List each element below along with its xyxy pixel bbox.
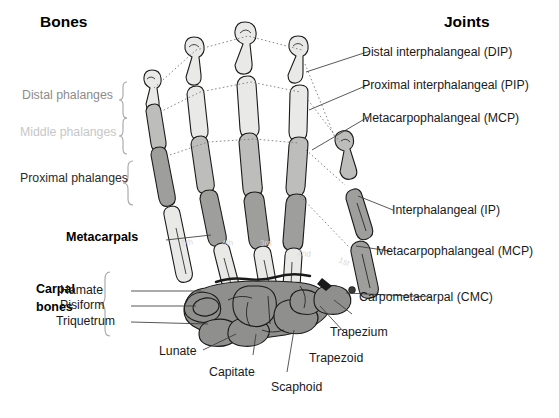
joints-column-heading: Joints — [444, 14, 490, 30]
metacarpal-5-number: 5th — [181, 237, 194, 248]
digit-1-thumb — [335, 131, 378, 299]
metacarpal-3-number: 3rd — [260, 239, 273, 248]
label-joint-ip: Interphalangeal (IP) — [392, 204, 500, 216]
bones-column-heading: Bones — [40, 14, 87, 30]
label-joint-mcp-fingers: Metacarpophalangeal (MCP) — [362, 112, 519, 124]
phalanges-brackets — [99, 82, 133, 336]
label-capitate: Capitate — [209, 366, 255, 378]
label-triquetrum: Triquetrum — [56, 315, 115, 327]
label-joint-mcp-thumb: Metacarpophalangeal (MCP) — [376, 245, 533, 257]
metacarpal-4-number: 4th — [221, 238, 234, 248]
label-joint-cmc: Carpometacarpal (CMC) — [359, 291, 493, 303]
label-metacarpals: Metacarpals — [66, 231, 138, 244]
label-hamate: Hamate — [60, 284, 103, 296]
label-lunate: Lunate — [159, 345, 197, 357]
digit-5-little-finger — [144, 70, 193, 282]
label-pisiform: Pisiform — [60, 299, 104, 311]
digit-4-ring-finger — [185, 37, 239, 291]
label-joint-dip: Distal interphalangeal (DIP) — [362, 46, 512, 58]
label-scaphoid: Scaphoid — [271, 381, 322, 393]
label-proximal-phalanges: Proximal phalanges — [20, 172, 128, 184]
label-joint-pip: Proximal interphalangeal (PIP) — [362, 79, 529, 91]
label-trapezium: Trapezium — [330, 326, 388, 338]
metacarpal-1-number: 1st — [337, 256, 351, 269]
label-middle-phalanges: Middle phalanges — [20, 126, 116, 138]
digit-3-middle-finger — [235, 22, 276, 292]
figure-canvas: .bl{fill:#e9e9e7;stroke:#1a1a1a;stroke-w… — [0, 0, 559, 418]
label-trapezoid: Trapezoid — [309, 352, 363, 364]
label-distal-phalanges: Distal phalanges — [22, 89, 113, 101]
